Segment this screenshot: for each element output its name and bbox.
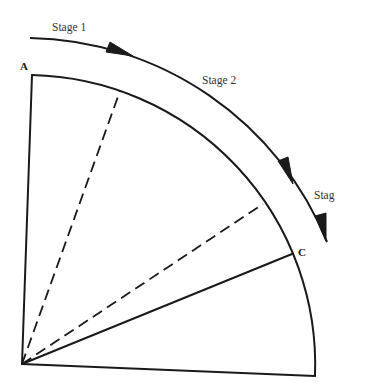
stage-1-arrowhead-icon (106, 42, 133, 56)
stage-2-label: Stage 2 (202, 74, 236, 87)
point-a-label: A (20, 60, 28, 72)
radius-ob (22, 364, 315, 376)
dashed-radius-2 (22, 204, 263, 364)
sector-outline (22, 75, 315, 376)
sector-diagram: Stage 1 Stage 2 Stag A C (0, 0, 367, 390)
point-c-label: C (298, 246, 306, 258)
stage-3-label: Stag (314, 189, 335, 202)
stage-arrow-arc (30, 38, 327, 242)
radius-oa (22, 75, 32, 364)
dashed-radius-1 (22, 91, 120, 364)
dashed-radii (22, 91, 263, 364)
stage-2-arrowhead-icon (278, 157, 293, 184)
sector-arc (32, 75, 315, 376)
stage-1-label: Stage 1 (52, 21, 86, 34)
stage-3-arrowhead-icon (315, 213, 326, 241)
arrowheads (106, 42, 326, 241)
radius-oc (22, 254, 292, 364)
